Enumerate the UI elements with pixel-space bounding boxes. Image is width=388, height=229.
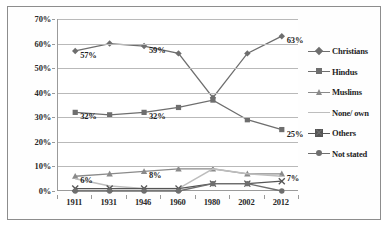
y-tick-label: 60%: [35, 39, 51, 49]
data-point-marker: [176, 188, 181, 193]
series-hindus: [73, 97, 285, 132]
data-point-marker: [73, 188, 78, 193]
y-tick-label: 20%: [35, 137, 51, 147]
data-label: 57%: [80, 50, 96, 60]
legend-label: Not stated: [332, 149, 367, 159]
gridline: [58, 166, 298, 167]
y-tick-label: 30%: [35, 112, 51, 122]
y-axis: 0%10%20%30%40%50%60%70%: [8, 7, 55, 193]
y-tick-mark: [52, 19, 55, 20]
plot-area: 57%59%63%32%32%25%6%8%7%: [57, 19, 298, 191]
y-tick-mark: [52, 44, 55, 45]
x-tick-mark: [160, 195, 161, 199]
x-tick-mark: [57, 195, 58, 199]
data-point-marker: [73, 110, 78, 115]
y-tick-mark: [52, 142, 55, 143]
data-point-marker: [141, 188, 146, 193]
x-tick-mark: [91, 195, 92, 199]
data-point-marker: [279, 188, 284, 193]
data-label: 8%: [149, 170, 161, 180]
series-layer: [58, 19, 299, 191]
y-tick-mark: [52, 68, 55, 69]
data-point-marker: [72, 48, 78, 54]
series-line: [75, 100, 282, 129]
data-point-marker: [107, 188, 112, 193]
x-tick-mark: [195, 195, 196, 199]
legend-label: None/ own: [332, 108, 369, 118]
legend-label: Others: [332, 128, 356, 138]
data-label: 7%: [287, 173, 299, 183]
gridline: [58, 19, 298, 20]
x-tick-label: 1980: [204, 197, 220, 207]
series-line: [75, 169, 282, 189]
legend-marker-icon: [308, 149, 330, 158]
x-tick-mark: [229, 195, 230, 199]
data-label: 6%: [80, 175, 92, 185]
x-tick-label: 2002: [238, 197, 254, 207]
series-none-own: [75, 169, 282, 189]
data-label: 32%: [80, 111, 96, 121]
series-line: [75, 36, 282, 97]
x-tick-mark: [126, 195, 127, 199]
legend-item[interactable]: None/ own: [308, 103, 380, 124]
y-tick-mark: [52, 117, 55, 118]
gridline: [58, 68, 298, 69]
data-point-marker: [210, 97, 215, 102]
gridline: [58, 142, 298, 143]
y-tick-label: 0%: [39, 186, 51, 196]
y-tick-label: 50%: [35, 63, 51, 73]
y-tick-mark: [52, 166, 55, 167]
y-tick-label: 10%: [35, 161, 51, 171]
legend-label: Muslims: [332, 87, 362, 97]
chart-legend: ChristiansHindusMuslimsNone/ ownOthersNo…: [308, 41, 380, 164]
data-point-marker: [245, 181, 250, 186]
data-label: 63%: [287, 35, 303, 45]
data-point-marker: [176, 105, 181, 110]
legend-item[interactable]: Hindus: [308, 62, 380, 83]
x-axis: 1911193119461960198020022012: [57, 195, 298, 215]
y-tick-label: 40%: [35, 88, 51, 98]
legend-marker-icon: [308, 108, 330, 117]
line-chart: 0%10%20%30%40%50%60%70% 57%59%63%32%32%2…: [8, 7, 382, 221]
y-tick-mark: [52, 191, 55, 192]
data-point-marker: [279, 127, 284, 132]
legend-item[interactable]: Christians: [308, 41, 380, 62]
gridline: [58, 44, 298, 45]
x-tick-label: 2012: [273, 197, 289, 207]
legend-item[interactable]: Others: [308, 123, 380, 144]
legend-marker-icon: [308, 47, 330, 56]
data-point-marker: [141, 110, 146, 115]
legend-marker-icon: [308, 67, 330, 76]
legend-label: Christians: [332, 46, 368, 56]
figure-frame: 0%10%20%30%40%50%60%70% 57%59%63%32%32%2…: [7, 6, 381, 220]
gridline: [58, 93, 298, 94]
x-tick-label: 1911: [66, 197, 82, 207]
legend-item[interactable]: Muslims: [308, 82, 380, 103]
legend-label: Hindus: [332, 67, 357, 77]
x-tick-label: 1946: [135, 197, 151, 207]
x-tick-label: 1931: [101, 197, 117, 207]
data-point-marker: [279, 33, 285, 39]
series-muslims: [72, 166, 285, 179]
x-tick-mark: [264, 195, 265, 199]
data-label: 25%: [287, 129, 303, 139]
y-tick-label: 70%: [35, 14, 51, 24]
y-tick-mark: [52, 93, 55, 94]
legend-item[interactable]: Not stated: [308, 144, 380, 165]
x-tick-label: 1960: [169, 197, 185, 207]
x-tick-mark: [298, 195, 299, 199]
data-label: 59%: [149, 45, 165, 55]
data-point-marker: [210, 181, 215, 186]
legend-marker-icon: [308, 129, 330, 138]
data-label: 32%: [149, 111, 165, 121]
legend-marker-icon: [308, 88, 330, 97]
